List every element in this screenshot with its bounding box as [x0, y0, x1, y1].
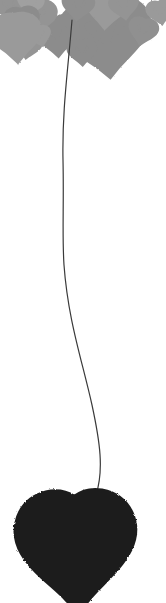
artwork-svg [0, 0, 166, 603]
heart-bottom-center [70, 42, 93, 61]
undefined [30, 504, 121, 590]
anchor-heart-group [30, 504, 121, 590]
heart-outline-left [3, 24, 28, 46]
artwork-canvas [0, 0, 166, 603]
